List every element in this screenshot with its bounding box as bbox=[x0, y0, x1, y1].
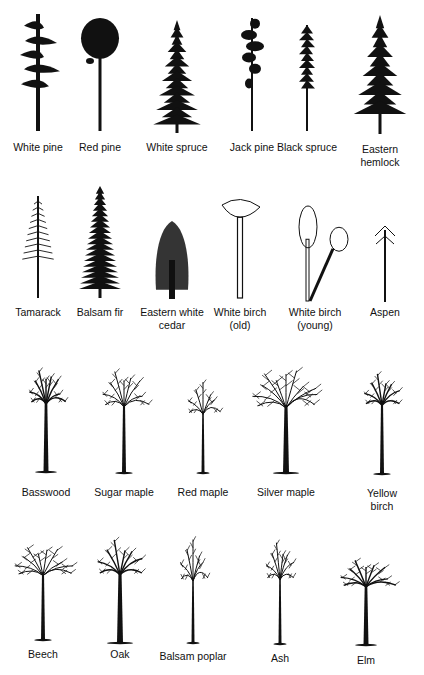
silver-maple-icon bbox=[286, 368, 287, 473]
basswood-icon bbox=[46, 362, 47, 472]
tree-label: Balsam poplar bbox=[159, 650, 226, 663]
poplar-icon bbox=[193, 543, 194, 643]
tree-label: Ash bbox=[271, 652, 289, 665]
tree-label: Balsam fir bbox=[77, 306, 124, 319]
tree-label: Oak bbox=[110, 648, 129, 661]
tree-label: White pine bbox=[13, 141, 63, 154]
cedar-icon bbox=[172, 221, 173, 299]
fir-icon bbox=[100, 186, 101, 298]
red-maple-icon bbox=[203, 378, 204, 473]
tree-label: Eastern white cedar bbox=[140, 306, 204, 332]
elm-icon bbox=[366, 551, 367, 645]
tree-label: Basswood bbox=[22, 486, 70, 499]
tree-label: White birch (old) bbox=[214, 306, 267, 332]
hemlock-icon bbox=[380, 15, 381, 134]
aspen-icon bbox=[385, 222, 386, 302]
tree-label: Yellow birch bbox=[361, 487, 403, 513]
tree-label: Silver maple bbox=[257, 486, 315, 499]
jack-pine-icon bbox=[252, 18, 253, 131]
tree-label: Beech bbox=[28, 648, 58, 661]
tamarack-icon bbox=[38, 196, 39, 298]
spruce-icon bbox=[177, 20, 178, 133]
tree-label: Black spruce bbox=[277, 141, 337, 154]
oak-icon bbox=[120, 533, 121, 643]
beech-icon bbox=[43, 536, 44, 640]
tree-label: Eastern hemlock bbox=[360, 143, 399, 169]
tree-label: Elm bbox=[357, 654, 375, 667]
white-pine-icon bbox=[38, 14, 39, 131]
tree-label: Sugar maple bbox=[94, 486, 154, 499]
birch-old-icon bbox=[240, 197, 241, 298]
birch-young-icon bbox=[315, 206, 316, 301]
tree-label: Tamarack bbox=[15, 306, 61, 319]
tree-label: Aspen bbox=[370, 306, 400, 319]
tree-label: Red pine bbox=[79, 141, 121, 154]
red-pine-icon bbox=[100, 18, 101, 131]
ash-icon bbox=[280, 540, 281, 644]
yellow-birch-icon bbox=[382, 363, 383, 474]
tree-label: White spruce bbox=[146, 141, 207, 154]
black-spruce-icon bbox=[307, 25, 308, 131]
sugar-maple-icon bbox=[124, 366, 125, 473]
tree-label: Jack pine bbox=[230, 141, 274, 154]
tree-label: Red maple bbox=[178, 486, 229, 499]
tree-label: White birch (young) bbox=[289, 306, 342, 332]
